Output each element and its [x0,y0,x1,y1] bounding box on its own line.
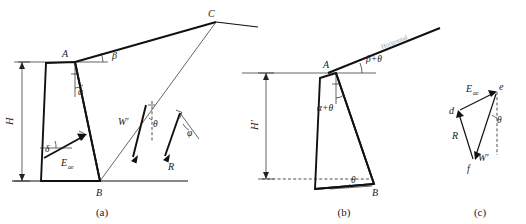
panel-b-wall-back-face [336,73,374,184]
figure-container: A B C H β α δ θ φ E ae W′ R (a) Horizont… [0,0,526,224]
panel-b-beta-theta-label: β+θ [365,54,382,64]
panel-a-Eae-symbol: E [60,157,67,168]
panel-a-theta-arc [149,118,152,120]
panel-c-Wprime-vector-shaft [476,94,496,155]
panel-a-Wprime-force-arrow-shaft [133,105,146,157]
panel-b-wall-outline [315,73,374,189]
panel-a-Wprime-force-arrowhead [131,155,138,164]
panel-a-H-arrow-bottom [19,174,25,181]
panel-a-caption: (a) [96,206,109,219]
panel-a-alpha-label: α [78,87,84,97]
panel-a-R-label: R [167,161,174,172]
panel-b-alpha-theta-label: α+θ [317,103,333,113]
panel-b-Hprime-label: H′ [249,119,260,131]
panel-a-Wprime-label: W′ [118,116,129,127]
panel-a: A B C H β α δ θ φ E ae W′ R (a) [4,8,258,219]
panel-a-ground-surface-right [216,22,258,27]
panel-a-H-label: H [4,116,15,126]
panel-c-Eae-label: E ae [465,83,479,96]
panel-b: Horizontal A B H′ β+θ α+θ θ (b) [242,28,440,219]
panel-c-point-e-label: e [499,81,504,92]
panel-b-beta-theta-arc [360,63,362,73]
panel-b-point-B-label: B [372,187,378,198]
panel-a-theta-label: θ [153,119,158,129]
panel-b-rotated-backfill-slope [328,28,440,73]
panel-b-caption: (b) [338,206,351,219]
panel-c-Wprime-label: W′ [478,152,489,163]
panel-a-Eae-force-arrow-shaft [44,136,84,158]
panel-c-theta-label: θ [497,115,502,125]
panel-a-point-A-label: A [61,48,69,59]
panel-a-R-force-arrow-shaft [165,113,180,156]
panel-c-point-d-label: d [449,105,455,116]
panel-c-Eae-subscript: ae [473,90,479,96]
panel-c-caption: (c) [474,206,487,219]
panel-c-Eae-symbol: E [465,83,472,94]
panel-a-Eae-label: E ae [60,157,74,170]
panel-a-H-arrow-top [19,62,25,69]
panel-a-delta-label: δ [45,144,50,154]
panel-a-Eae-subscript: ae [68,164,74,170]
panel-a-point-C-label: C [208,8,215,19]
panel-a-phi-label: φ [187,128,192,138]
panel-a-failure-plane [100,22,216,181]
panel-a-wall-back-face [75,62,100,181]
panel-c-R-vector-shaft [459,114,473,159]
panel-a-point-B-label: B [96,187,102,198]
panel-c-R-label: R [451,130,458,141]
panel-b-point-A-label: A [322,59,330,70]
panel-c-point-f-label: f [467,163,471,174]
panel-b-Hprime-arrow-top [263,73,269,80]
panel-a-backfill-slope-line [75,22,216,62]
panel-a-beta-label: β [111,50,117,61]
diagram-canvas: A B C H β α δ θ φ E ae W′ R (a) Horizont… [0,0,526,224]
panel-b-Hprime-arrow-bottom [263,172,269,179]
panel-c: E ae d e f R W′ θ (c) [449,81,504,219]
panel-c-R-vector-arrowhead [456,110,464,118]
panel-a-delta-arc [55,141,56,148]
panel-b-theta-label: θ [351,175,356,185]
